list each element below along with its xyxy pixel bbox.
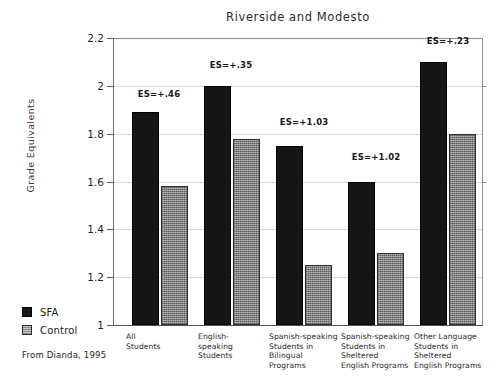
chart-title: Riverside and Modesto: [113, 10, 483, 24]
legend-swatch-sfa-icon: [22, 307, 32, 317]
y-tick-label: 2.2: [70, 32, 104, 44]
y-tick-label: 1.6: [70, 176, 104, 188]
es-annotation-other-language: ES=+.23: [427, 36, 470, 46]
y-tick-label: 1.2: [70, 271, 104, 283]
bar-sfa-all-students: [132, 112, 159, 325]
es-annotation-spanish-sheltered: ES=+1.02: [352, 152, 401, 162]
chart-legend: SFA Control: [22, 303, 110, 339]
bar-sfa-spanish-sheltered: [348, 182, 375, 326]
es-annotation-spanish-bilingual: ES=+1.03: [280, 117, 329, 127]
bar-sfa-spanish-bilingual: [276, 146, 303, 325]
source-note: From Dianda, 1995: [22, 350, 106, 360]
category-label-all-students: All Students: [126, 332, 194, 351]
es-annotation-all-students: ES=+.46: [138, 89, 181, 99]
legend-item-control: Control: [22, 321, 110, 339]
category-label-spanish-bilingual: Spanish-speaking Students in Bilingual P…: [269, 332, 341, 370]
y-tick-label: 1.4: [70, 223, 104, 235]
bar-control-english-speaking: [233, 139, 260, 326]
es-annotation-english-speaking: ES=+.35: [210, 60, 253, 70]
y-tick-label: 2: [70, 80, 104, 92]
bar-chart-figure: Riverside and Modesto Grade Equivalents …: [0, 0, 504, 385]
legend-item-sfa: SFA: [22, 303, 110, 321]
category-label-english-speaking: English- speaking Students: [198, 332, 266, 361]
y-axis-title: Grade Equivalents: [25, 86, 36, 206]
bar-control-spanish-bilingual: [305, 265, 332, 325]
category-label-other-language: Other Language Students in Sheltered Eng…: [414, 332, 494, 370]
legend-swatch-control-icon: [22, 325, 32, 335]
bar-control-all-students: [161, 186, 188, 325]
y-tick-label: 1.8: [70, 128, 104, 140]
bar-sfa-english-speaking: [204, 86, 231, 325]
legend-label-control: Control: [40, 325, 78, 336]
bar-control-other-language: [449, 134, 476, 325]
category-label-spanish-sheltered: Spanish-speaking Students in Sheltered E…: [341, 332, 413, 370]
plot-area: [113, 38, 483, 325]
bar-control-spanish-sheltered: [377, 253, 404, 325]
legend-label-sfa: SFA: [40, 307, 59, 318]
bar-sfa-other-language: [420, 62, 447, 325]
plot-baseline: [113, 325, 483, 326]
